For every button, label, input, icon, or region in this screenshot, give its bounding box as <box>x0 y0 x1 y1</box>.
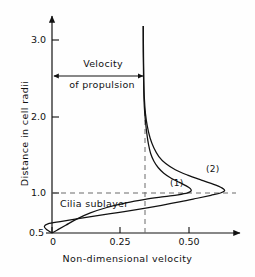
annotation-cilia-sublayer: Cilia sublayer <box>60 198 128 209</box>
y-tick-label-3-0: 3.0 <box>20 34 46 45</box>
x-tick-label-0-25: 0.25 <box>105 236 135 247</box>
x-axis-ticks <box>52 227 189 233</box>
x-tick-label-0-50: 0.50 <box>174 236 204 247</box>
figure-container: Distance in cell radii Non-dimensional v… <box>0 0 255 277</box>
annotation-velocity: Velocity <box>60 58 146 69</box>
x-tick-label-0: 0 <box>38 236 68 247</box>
y-tick-label-2-0: 2.0 <box>20 111 46 122</box>
x-axis-title: Non-dimensional velocity <box>0 253 255 264</box>
y-tick-label-1-0: 1.0 <box>20 187 46 198</box>
curve-label-2: (2) <box>206 164 220 174</box>
curve-label-1: (1) <box>170 178 184 188</box>
annotation-of-propulsion: of propulsion <box>52 79 152 90</box>
